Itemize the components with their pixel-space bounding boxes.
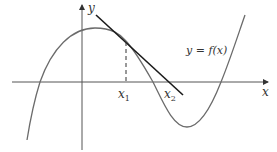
function-curve	[27, 15, 245, 140]
x2-label-base: x	[164, 87, 171, 101]
x1-label-base: x	[118, 87, 125, 101]
x-axis-label: x	[262, 86, 269, 98]
curve-equation-label: y = f(x)	[186, 45, 227, 56]
x1-label-subscript: 1	[125, 94, 130, 103]
y-axis-label: y	[88, 2, 95, 14]
tangent-line	[96, 15, 183, 95]
x1-label: x1	[118, 88, 130, 100]
function-graph	[0, 0, 277, 152]
x2-label: x2	[164, 88, 176, 100]
x2-label-subscript: 2	[171, 94, 176, 103]
